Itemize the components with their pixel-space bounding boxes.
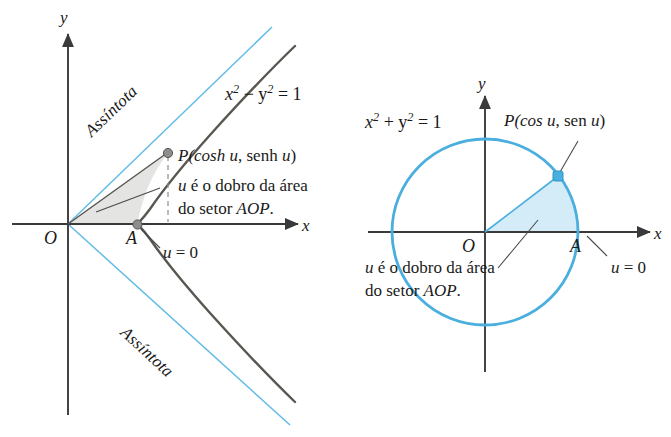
p-label-mid: , senh	[238, 146, 282, 165]
p-label-suffix: )	[290, 146, 296, 165]
p-label-u1: u	[229, 146, 238, 165]
circle-equation-tail: = 1	[413, 112, 441, 132]
circle-note1-u: u	[365, 258, 374, 277]
circle-point-p-marker	[553, 171, 563, 181]
note2-aop: AOP	[237, 199, 270, 218]
circle-vertex-label: A	[570, 236, 581, 257]
hyperbola-origin-label: O	[44, 228, 57, 249]
hyperbola-equation-tail: = 1	[273, 84, 301, 104]
circle-x-axis-label: x	[654, 224, 662, 244]
circle-p-suffix: )	[599, 111, 605, 130]
hyperbola-x-axis-label: x	[302, 216, 310, 236]
note1-rest: é o dobro da área	[187, 176, 308, 195]
circle-origin-label: O	[462, 236, 475, 257]
uzero-u: u	[163, 243, 172, 262]
circle-equation-mid: + y	[379, 112, 407, 132]
figure-root: y x O A x2 − y2 = 1 P(cosh u, senh u) u …	[0, 0, 671, 437]
figure-svg	[0, 0, 671, 437]
circle-point-p-label: P(cos u, sen u)	[504, 111, 605, 131]
note2-suffix: .	[270, 199, 274, 218]
hyperbola-note-line1: u é o dobro da área	[178, 176, 308, 196]
hyperbola-u-zero-label: u = 0	[163, 243, 198, 263]
hyperbola-vertex-label: A	[126, 228, 137, 249]
circle-uzero-u: u	[611, 258, 620, 277]
point-p-marker	[163, 148, 172, 157]
circle-note1-rest: é o dobro da área	[374, 258, 495, 277]
circle-equation: x2 + y2 = 1	[365, 110, 442, 133]
circle-u-zero-leader-line	[587, 236, 607, 256]
circle-note2-prefix: do setor	[365, 281, 424, 300]
p-label-leader-line	[560, 141, 578, 172]
hyperbola-y-axis-label: y	[60, 8, 68, 28]
circle-p-prefix: P(cos	[504, 111, 547, 130]
note2-prefix: do setor	[178, 199, 237, 218]
circle-y-axis-label: y	[478, 74, 486, 94]
u-zero-leader-line	[141, 229, 160, 248]
uzero-rest: = 0	[172, 243, 199, 262]
circle-note2-aop: AOP	[424, 281, 457, 300]
circle-panel-graphics	[368, 96, 650, 372]
circle-p-mid: , sen	[555, 111, 590, 130]
hyperbola-note-line2: do setor AOP.	[178, 199, 274, 219]
hyperbola-equation-x: x	[225, 84, 233, 104]
circle-note2-suffix: .	[457, 281, 461, 300]
p-label-prefix: P(cosh	[178, 146, 229, 165]
circle-note-line1: u é o dobro da área	[365, 258, 495, 278]
hyperbola-equation-mid: − y	[239, 84, 267, 104]
circle-u-zero-label: u = 0	[611, 258, 646, 278]
hyperbola-point-p-label: P(cosh u, senh u)	[178, 146, 296, 166]
hyperbola-equation: x2 − y2 = 1	[225, 82, 302, 105]
circle-equation-x: x	[365, 112, 373, 132]
circle-note-line2: do setor AOP.	[365, 281, 461, 301]
circle-uzero-rest: = 0	[620, 258, 647, 277]
note1-u: u	[178, 176, 187, 195]
